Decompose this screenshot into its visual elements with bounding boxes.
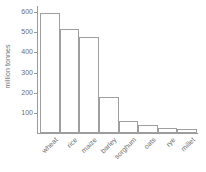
y-tick-label: 500 xyxy=(3,28,33,35)
y-tick-mark xyxy=(34,73,37,74)
y-tick-mark xyxy=(34,113,37,114)
y-tick-mark xyxy=(34,93,37,94)
y-tick-mark xyxy=(34,12,37,13)
x-axis-line xyxy=(37,133,198,134)
y-tick-label: 100 xyxy=(3,109,33,116)
plot-area xyxy=(40,8,197,133)
bar-oats xyxy=(138,125,158,133)
y-tick-mark xyxy=(34,32,37,33)
y-tick-label: 600 xyxy=(3,8,33,15)
bar-millet xyxy=(177,129,197,133)
y-axis-line xyxy=(37,6,38,134)
y-tick-label: 400 xyxy=(3,48,33,55)
bar-rye xyxy=(158,128,178,133)
bar-barley xyxy=(99,97,119,133)
bar-sorghum xyxy=(119,121,139,133)
y-tick-label: 300 xyxy=(3,69,33,76)
y-tick-mark xyxy=(34,52,37,53)
bar-chart: million tonnes 100200300400500600 wheatr… xyxy=(0,0,206,172)
bar-wheat xyxy=(40,13,60,133)
bar-maize xyxy=(79,37,99,133)
bar-rice xyxy=(60,29,80,133)
y-tick-label: 200 xyxy=(3,89,33,96)
